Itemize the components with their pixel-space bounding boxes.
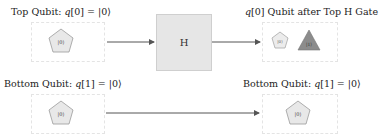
bottom-input-ket: |0⟩ bbox=[58, 111, 65, 118]
top-output-pentagon-icon: |0⟩ bbox=[272, 32, 288, 48]
bottom-input-pentagon-icon: |0⟩ bbox=[49, 101, 73, 124]
top-input-ket: |0⟩ bbox=[58, 39, 65, 46]
bottom-output-ket: |0⟩ bbox=[295, 111, 302, 118]
top-output-triangle-icon: |1⟩ bbox=[298, 30, 320, 50]
bottom-output-pentagon-icon: |0⟩ bbox=[286, 101, 310, 124]
top-output-ket-0: |0⟩ bbox=[277, 39, 283, 44]
circuit-overlay: |0⟩ |0⟩ |1⟩ |0⟩ |0⟩ bbox=[0, 0, 382, 140]
top-input-pentagon-icon: |0⟩ bbox=[49, 29, 73, 52]
